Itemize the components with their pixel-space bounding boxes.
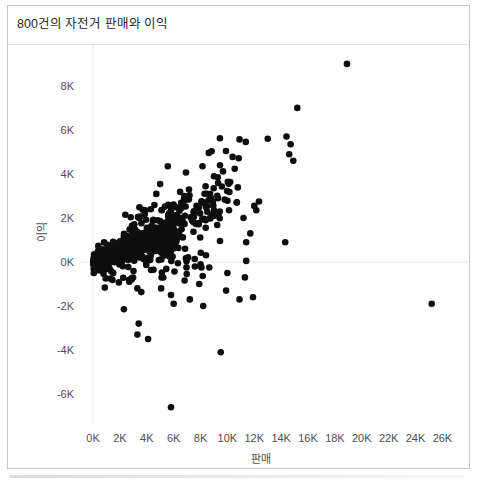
data-point[interactable] xyxy=(264,136,271,143)
data-point[interactable] xyxy=(131,240,138,247)
data-point[interactable] xyxy=(198,250,205,257)
data-point[interactable] xyxy=(294,105,301,112)
data-point[interactable] xyxy=(121,306,128,313)
data-point[interactable] xyxy=(145,336,152,343)
data-point[interactable] xyxy=(286,151,293,158)
data-point[interactable] xyxy=(153,239,160,246)
data-point[interactable] xyxy=(181,195,188,202)
data-point[interactable] xyxy=(224,270,231,277)
data-point[interactable] xyxy=(148,250,155,257)
data-point[interactable] xyxy=(143,234,150,241)
data-point[interactable] xyxy=(168,202,175,209)
data-point[interactable] xyxy=(198,198,205,205)
data-point[interactable] xyxy=(287,141,294,148)
data-point[interactable] xyxy=(214,222,221,229)
data-point[interactable] xyxy=(196,281,203,288)
data-point[interactable] xyxy=(250,294,257,301)
data-point[interactable] xyxy=(236,296,243,303)
data-point[interactable] xyxy=(210,185,217,192)
data-point[interactable] xyxy=(168,404,175,411)
data-point[interactable] xyxy=(166,253,173,260)
data-point[interactable] xyxy=(187,296,194,303)
data-point[interactable] xyxy=(101,239,108,246)
data-point[interactable] xyxy=(136,204,143,211)
data-point[interactable] xyxy=(94,258,101,265)
data-point[interactable] xyxy=(282,239,289,246)
data-point[interactable] xyxy=(243,239,250,246)
plot-canvas[interactable] xyxy=(80,45,472,424)
data-point[interactable] xyxy=(119,242,126,249)
data-point[interactable] xyxy=(231,165,238,172)
data-point[interactable] xyxy=(215,174,222,181)
data-point[interactable] xyxy=(181,221,188,228)
data-point[interactable] xyxy=(242,274,249,281)
data-point[interactable] xyxy=(135,214,142,221)
data-point[interactable] xyxy=(165,163,172,170)
data-point[interactable] xyxy=(226,207,233,214)
data-point[interactable] xyxy=(182,245,189,252)
data-point[interactable] xyxy=(186,186,193,193)
data-point[interactable] xyxy=(157,218,164,225)
data-point[interactable] xyxy=(196,221,203,228)
data-point[interactable] xyxy=(223,148,230,155)
data-point[interactable] xyxy=(175,245,182,252)
data-point[interactable] xyxy=(177,189,184,196)
data-point[interactable] xyxy=(290,158,297,165)
data-point[interactable] xyxy=(217,162,224,169)
data-point[interactable] xyxy=(134,331,141,338)
data-point[interactable] xyxy=(154,225,161,232)
data-point[interactable] xyxy=(128,252,135,259)
data-point[interactable] xyxy=(251,203,258,210)
data-point[interactable] xyxy=(428,301,435,308)
data-point[interactable] xyxy=(143,262,150,269)
data-point[interactable] xyxy=(208,148,215,155)
data-point[interactable] xyxy=(171,268,178,275)
data-point[interactable] xyxy=(121,231,128,238)
data-point[interactable] xyxy=(95,243,102,250)
data-point[interactable] xyxy=(226,189,233,196)
data-point[interactable] xyxy=(191,256,198,263)
data-point[interactable] xyxy=(114,249,121,256)
data-point[interactable] xyxy=(132,228,139,235)
data-point[interactable] xyxy=(102,275,109,282)
data-point[interactable] xyxy=(143,217,150,224)
data-point[interactable] xyxy=(182,213,189,220)
data-point[interactable] xyxy=(177,205,184,212)
data-point[interactable] xyxy=(236,136,243,143)
data-point[interactable] xyxy=(173,238,180,245)
data-point[interactable] xyxy=(200,303,207,310)
data-point[interactable] xyxy=(156,257,163,264)
data-point[interactable] xyxy=(234,199,241,206)
data-point[interactable] xyxy=(235,184,242,191)
data-point[interactable] xyxy=(148,267,155,274)
data-point[interactable] xyxy=(217,349,224,356)
data-point[interactable] xyxy=(214,192,221,199)
data-point[interactable] xyxy=(207,215,214,222)
data-point[interactable] xyxy=(148,223,155,230)
data-point[interactable] xyxy=(197,210,204,217)
data-point[interactable] xyxy=(157,181,164,188)
data-point[interactable] xyxy=(91,270,98,277)
data-point[interactable] xyxy=(199,163,206,170)
data-point[interactable] xyxy=(158,285,165,292)
data-point[interactable] xyxy=(219,183,226,190)
data-point[interactable] xyxy=(197,234,204,241)
data-point[interactable] xyxy=(283,133,290,140)
data-point[interactable] xyxy=(153,191,160,198)
data-point[interactable] xyxy=(166,210,173,217)
data-point[interactable] xyxy=(193,203,200,210)
data-point[interactable] xyxy=(223,287,230,294)
data-point[interactable] xyxy=(221,196,228,203)
data-point[interactable] xyxy=(175,260,182,267)
data-point[interactable] xyxy=(140,244,147,251)
data-point[interactable] xyxy=(125,264,132,271)
data-point[interactable] xyxy=(164,235,171,242)
data-point[interactable] xyxy=(138,289,145,296)
data-point[interactable] xyxy=(159,207,166,214)
data-point[interactable] xyxy=(220,168,227,175)
data-point[interactable] xyxy=(183,264,190,271)
data-point[interactable] xyxy=(151,202,158,209)
data-point[interactable] xyxy=(160,274,167,281)
data-point[interactable] xyxy=(190,228,197,235)
data-point[interactable] xyxy=(109,277,116,284)
